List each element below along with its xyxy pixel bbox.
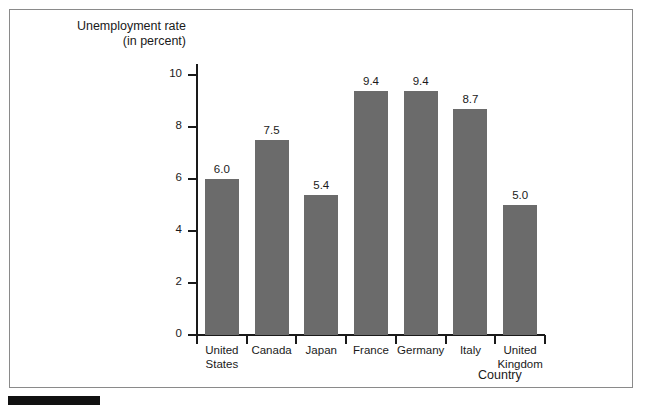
y-tick-label: 6 (156, 172, 182, 184)
bar-value-label: 9.4 (396, 75, 446, 87)
y-tick-mark (188, 230, 197, 232)
bar[interactable] (304, 195, 338, 335)
x-tick-mark (246, 335, 248, 344)
y-tick-label: 4 (156, 224, 182, 236)
y-axis-title: Unemployment rate (in percent) (46, 19, 186, 49)
x-tick-mark (395, 335, 397, 344)
y-tick-label-wrap: 2 (150, 276, 182, 288)
bar-value-label: 6.0 (197, 163, 247, 175)
x-tick-mark (445, 335, 447, 344)
x-axis-title: Country (478, 368, 522, 382)
y-axis-line (196, 64, 198, 336)
y-tick-mark (188, 178, 197, 180)
bar-value-label: 7.5 (247, 124, 297, 136)
y-axis-title-line1: Unemployment rate (46, 19, 186, 34)
bar-chart: Unemployment rate (in percent) 0246810 6… (0, 0, 648, 408)
x-tick-mark (345, 335, 347, 344)
y-axis-title-line2: (in percent) (46, 34, 186, 49)
y-tick-mark (188, 126, 197, 128)
y-tick-label-wrap: 6 (150, 172, 182, 184)
bar-value-label: 8.7 (445, 93, 495, 105)
y-tick-label: 8 (156, 120, 182, 132)
y-tick-label: 2 (156, 276, 182, 288)
bar-value-label: 9.4 (346, 75, 396, 87)
bar[interactable] (205, 179, 239, 335)
bar[interactable] (453, 109, 487, 335)
x-tick-mark (544, 335, 546, 344)
y-tick-label-wrap: 8 (150, 120, 182, 132)
y-tick-label-wrap: 0 (150, 328, 182, 340)
y-tick-mark (188, 74, 197, 76)
x-tick-mark (295, 335, 297, 344)
y-tick-label: 10 (156, 68, 182, 80)
y-tick-label-wrap: 4 (150, 224, 182, 236)
x-tick-mark (494, 335, 496, 344)
y-tick-mark (188, 282, 197, 284)
bar-value-label: 5.4 (296, 179, 346, 191)
x-tick-mark (196, 335, 198, 344)
bar[interactable] (503, 205, 537, 335)
x-category-label: United Kingdom (486, 344, 554, 371)
y-tick-label: 0 (156, 328, 182, 340)
bar-value-label: 5.0 (495, 189, 545, 201)
bar[interactable] (255, 140, 289, 335)
bar[interactable] (354, 91, 388, 335)
y-tick-label-wrap: 10 (150, 68, 182, 80)
bar[interactable] (404, 91, 438, 335)
